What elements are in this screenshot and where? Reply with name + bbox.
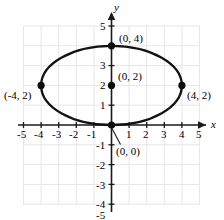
x-tick-3: 3: [161, 129, 167, 140]
x-tick-2: 2: [143, 129, 149, 140]
x-tick-4: 4: [179, 129, 185, 140]
y-tick-neg2: -2: [96, 160, 105, 171]
label-center-point: (0, 2): [118, 71, 142, 82]
point-neg4-2: [38, 82, 45, 89]
x-axis-name: x: [211, 119, 216, 130]
label-top-point: (0, 4): [119, 33, 143, 44]
y-tick-3: 3: [100, 60, 106, 71]
x-tick-5: 5: [196, 129, 202, 140]
point-4-2: [178, 82, 185, 89]
y-axis: [108, 12, 116, 212]
y-tick-5: 5: [100, 21, 106, 32]
x-tick-neg4: -4: [34, 129, 43, 140]
y-tick-1: 1: [100, 100, 106, 111]
x-tick-neg2: -2: [69, 129, 78, 140]
y-axis-name: y: [114, 2, 119, 13]
point-0-0: [108, 121, 115, 128]
point-0-2: [108, 82, 115, 89]
y-tick-neg1: -1: [96, 140, 105, 151]
coordinate-plane: [0, 0, 224, 220]
graph-figure: y x -5 -4 -3 -2 -1 1 2 3 4 5 5 3 2 1 -1 …: [0, 0, 224, 220]
x-tick-neg5: -5: [17, 129, 26, 140]
label-origin-point: (0, 0): [116, 146, 140, 157]
origin-leader-line: [111, 127, 121, 145]
y-tick-neg3: -3: [96, 180, 105, 191]
x-tick-1: 1: [126, 129, 132, 140]
label-right-point: (4, 2): [187, 90, 211, 101]
x-tick-neg1: -1: [87, 129, 96, 140]
point-0-4: [108, 42, 115, 49]
x-tick-neg3: -3: [52, 129, 61, 140]
y-tick-neg5: -5: [96, 210, 105, 220]
y-tick-2: 2: [100, 80, 106, 91]
label-left-point: (-4, 2): [4, 90, 32, 101]
